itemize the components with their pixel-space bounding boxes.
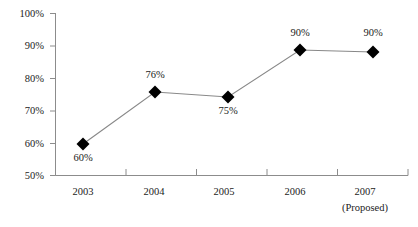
data-point-marker [367,46,380,59]
data-label-2007: 90% [352,28,394,39]
x-tick-label-2003: 2003 [47,187,119,198]
data-point-marker [294,44,307,57]
data-point-marker [149,86,162,99]
data-label-2006: 90% [279,28,321,39]
data-point-marker [222,91,235,104]
x-tick-label-2005: 2005 [188,187,260,198]
y-tick-label-50: 50% [6,171,44,182]
y-tick-label-90: 90% [6,41,44,52]
data-label-2003: 60% [62,153,104,164]
y-tick-label-60: 60% [6,139,44,150]
y-axis-ticks [50,14,56,176]
y-tick-label-70: 70% [6,106,44,117]
y-tick-label-80: 80% [6,74,44,85]
data-label-2004: 76% [134,70,176,81]
series-markers [77,44,380,151]
x-tick-label-2004: 2004 [118,187,190,198]
data-point-marker [77,138,90,151]
line-chart: 100% 90% 80% 70% 60% 50% 2003 2004 2005 … [0,0,418,227]
x-tick-sublabel-2007-proposed: (Proposed) [329,202,401,213]
y-tick-label-100: 100% [6,9,44,20]
x-axis-ticks [56,169,409,176]
x-tick-label-2006: 2006 [259,187,331,198]
data-label-2005: 75% [207,106,249,117]
x-tick-label-2007: 2007 [329,187,401,198]
